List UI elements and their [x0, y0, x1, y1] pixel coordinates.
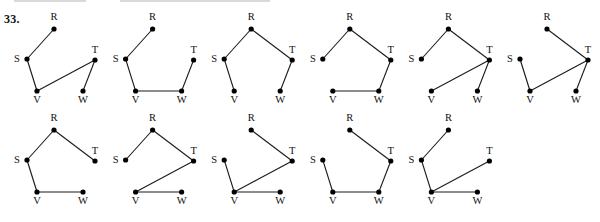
edge-T-W	[280, 60, 292, 91]
edge-T-V	[234, 161, 292, 192]
vertex-label-T: T	[585, 44, 592, 55]
vertex-S	[419, 157, 424, 162]
edge-S-V	[421, 160, 431, 192]
edge-T-W	[576, 60, 588, 91]
vertex-R	[446, 26, 451, 31]
vertex-R	[347, 127, 352, 132]
edge-S-V	[323, 160, 333, 192]
edge-R-T	[350, 29, 391, 60]
vertex-W	[80, 189, 85, 194]
vertex-label-T: T	[388, 44, 395, 55]
edge-R-T	[153, 130, 194, 161]
vertex-label-W: W	[374, 94, 384, 105]
vertex-label-V: V	[526, 94, 534, 105]
edge-T-W	[83, 60, 95, 91]
vertex-T	[92, 57, 97, 62]
vertex-label-W: W	[472, 94, 482, 105]
vertex-label-S: S	[14, 154, 20, 165]
vertex-R	[150, 127, 155, 132]
vertex-label-T: T	[289, 44, 296, 55]
vertex-S	[320, 56, 325, 61]
vertex-R	[347, 26, 352, 31]
vertex-S	[222, 56, 227, 61]
vertex-V	[429, 88, 434, 93]
vertex-label-R: R	[50, 112, 57, 123]
vertex-S	[517, 56, 522, 61]
vertex-label-W: W	[275, 94, 285, 105]
vertex-label-T: T	[486, 44, 493, 55]
vertex-W	[573, 88, 578, 93]
vertex-W	[376, 189, 381, 194]
vertex-V	[232, 189, 237, 194]
vertex-label-T: T	[190, 145, 197, 156]
vertex-label-V: V	[230, 94, 238, 105]
edge-S-V	[520, 59, 530, 91]
vertex-label-W: W	[472, 195, 482, 206]
vertex-T	[290, 57, 295, 62]
vertex-label-V: V	[329, 94, 337, 105]
edge-R-S	[323, 29, 350, 59]
tree-graph-3: RSTVW	[211, 11, 296, 105]
vertex-V	[429, 189, 434, 194]
vertex-V	[232, 88, 237, 93]
vertex-label-W: W	[275, 195, 285, 206]
tree-graph-10: RSTVW	[310, 112, 395, 206]
vertex-label-T: T	[388, 145, 395, 156]
edge-W-T	[182, 60, 194, 91]
vertex-label-S: S	[211, 154, 217, 165]
vertex-label-R: R	[445, 11, 452, 22]
vertex-label-S: S	[14, 53, 20, 64]
edge-S-V	[126, 59, 136, 91]
vertex-R	[51, 26, 56, 31]
edge-R-T	[54, 130, 95, 161]
edge-R-S	[126, 130, 153, 160]
edge-T-W	[379, 161, 391, 192]
edge-R-T	[448, 29, 489, 60]
vertex-W	[278, 88, 283, 93]
vertex-label-W: W	[78, 195, 88, 206]
vertex-label-V: V	[230, 195, 238, 206]
vertex-label-W: W	[177, 94, 187, 105]
vertex-label-T: T	[92, 44, 99, 55]
edge-R-T	[547, 29, 588, 60]
vertex-W	[278, 189, 283, 194]
edge-T-V	[530, 60, 588, 91]
edge-S-V	[224, 160, 234, 192]
vertex-T	[487, 158, 492, 163]
vertex-label-W: W	[78, 94, 88, 105]
edge-T-W	[477, 60, 489, 91]
vertex-label-R: R	[543, 11, 550, 22]
vertex-label-T: T	[92, 145, 99, 156]
vertex-label-T: T	[486, 145, 493, 156]
vertex-S	[24, 56, 29, 61]
vertex-R	[544, 26, 549, 31]
edge-R-S	[126, 29, 153, 59]
vertex-label-S: S	[113, 53, 119, 64]
vertex-S	[419, 56, 424, 61]
vertex-label-V: V	[428, 94, 436, 105]
vertex-label-V: V	[33, 195, 41, 206]
vertex-label-R: R	[149, 112, 156, 123]
vertex-S	[222, 157, 227, 162]
vertex-T	[290, 158, 295, 163]
vertex-label-R: R	[149, 11, 156, 22]
edge-T-W	[379, 60, 391, 91]
edge-S-V	[27, 59, 37, 91]
vertex-label-R: R	[445, 112, 452, 123]
vertex-label-S: S	[310, 154, 316, 165]
edge-R-S	[27, 130, 54, 160]
vertex-V	[133, 189, 138, 194]
vertex-label-W: W	[177, 195, 187, 206]
vertex-W	[475, 189, 480, 194]
vertex-label-R: R	[346, 112, 353, 123]
tree-graph-6: RSTVW	[507, 11, 592, 105]
edge-S-V	[224, 59, 234, 91]
vertex-label-S: S	[408, 53, 414, 64]
vertex-W	[80, 88, 85, 93]
edge-V-T	[431, 161, 489, 192]
vertex-label-V: V	[132, 94, 140, 105]
edge-R-S	[224, 29, 251, 59]
vertex-label-S: S	[507, 53, 513, 64]
vertex-W	[376, 88, 381, 93]
vertex-label-V: V	[329, 195, 337, 206]
